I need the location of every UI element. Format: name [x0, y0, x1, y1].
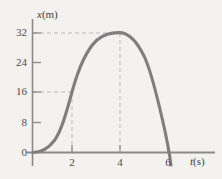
y-axis-title-unit: (m) [42, 8, 58, 20]
position-curve [33, 33, 171, 165]
x-tick-label-2: 2 [64, 157, 80, 168]
x-tick-label-4: 4 [112, 157, 128, 168]
x-axis-title: t(s) [190, 156, 205, 167]
y-tick-label-32: 32 [5, 27, 27, 38]
position-time-graph-figure: 32 24 16 8 0 2 4 6 x(m) t(s) [0, 0, 222, 179]
y-tick-label-16: 16 [5, 86, 27, 97]
y-tick-label-0: 0 [5, 147, 27, 158]
y-tick-label-24: 24 [5, 57, 27, 68]
x-tick-label-6: 6 [160, 157, 176, 168]
plot-canvas [0, 0, 222, 179]
x-axis-title-unit: (s) [193, 155, 205, 167]
y-axis-title: x(m) [37, 9, 58, 20]
y-tick-label-8: 8 [5, 117, 27, 128]
